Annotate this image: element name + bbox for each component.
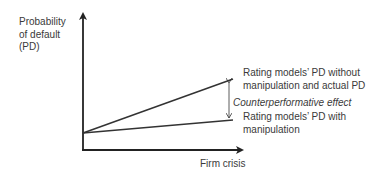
upper-line-label-line: manipulation and actual PD [243,80,365,93]
upper-line-label-line: Rating models’ PD without [243,67,365,80]
lower-line-label: Rating models’ PD with manipulation [243,111,346,136]
x-axis-label: Firm crisis [200,158,246,171]
gap-label: Counterperformative effect [233,97,351,110]
upper-pd-line [83,79,233,133]
y-axis-label-line: of default [19,29,66,42]
lower-line-label-line: manipulation [243,124,346,137]
y-axis-label: Probability of default (PD) [19,16,66,54]
upper-line-label: Rating models’ PD without manipulation a… [243,67,365,92]
y-axis-label-line: (PD) [19,41,66,54]
lower-line-label-line: Rating models’ PD with [243,111,346,124]
lower-pd-line [83,120,233,133]
y-axis-label-line: Probability [19,16,66,29]
